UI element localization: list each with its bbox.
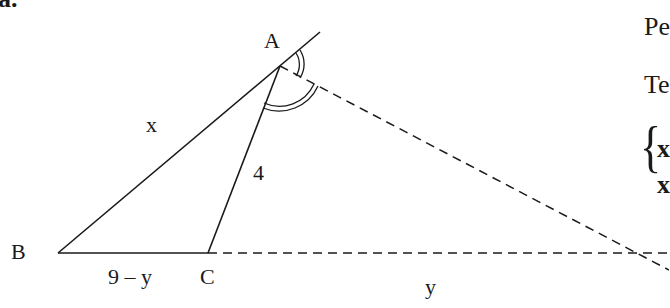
system-row-1: x — [657, 136, 670, 162]
angle-mark-external-1 — [296, 53, 299, 76]
segment-label-ab: x — [146, 114, 157, 136]
problem-label: a. — [0, 0, 18, 12]
angle-mark-external-1b — [300, 50, 304, 78]
vertex-label-c: C — [200, 266, 215, 288]
line-ba-extended — [58, 32, 320, 253]
segment-label-bc: 9 – y — [108, 266, 152, 288]
vertex-label-a: A — [264, 30, 280, 52]
segment-label-cd: y — [425, 276, 436, 298]
vertex-label-b: B — [11, 241, 26, 263]
right-text-line-2: Te — [644, 72, 670, 98]
segment-ac — [208, 66, 280, 253]
dashed-external-bisector — [280, 66, 669, 270]
segment-label-ac: 4 — [253, 162, 264, 184]
system-row-2: x — [657, 172, 670, 198]
right-text-line-1: Pe — [644, 14, 670, 40]
